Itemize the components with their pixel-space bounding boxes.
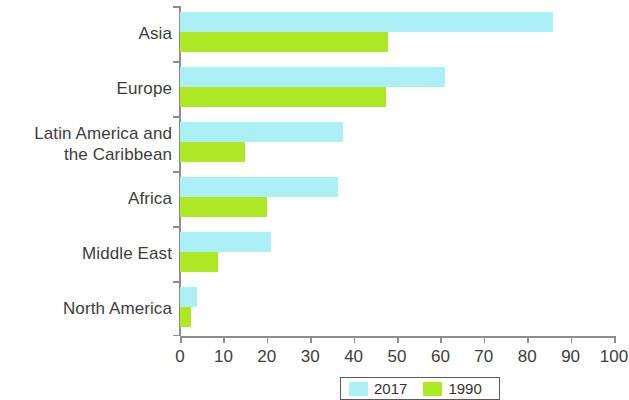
x-axis xyxy=(180,336,614,346)
x-axis-tick xyxy=(180,336,182,343)
category-label: Asia xyxy=(0,23,172,44)
x-axis-tick xyxy=(397,336,399,343)
bar-1990-africa xyxy=(180,197,267,217)
x-axis-tick-label: 100 xyxy=(600,346,628,368)
x-axis-tick xyxy=(614,336,616,343)
bar-chart: AsiaEuropeLatin America and the Caribbea… xyxy=(0,0,629,400)
y-axis-tick xyxy=(173,226,180,228)
x-axis-tick-label: 80 xyxy=(518,346,537,368)
x-axis-tick-label: 90 xyxy=(561,346,580,368)
bar-2017-africa xyxy=(180,177,338,197)
x-axis-tick xyxy=(484,336,486,343)
x-axis-tick xyxy=(527,336,529,343)
x-axis-tick-label: 60 xyxy=(431,346,450,368)
legend-swatch-icon xyxy=(349,382,368,396)
x-axis-tick-label: 0 xyxy=(175,346,184,368)
x-axis-tick xyxy=(571,336,573,343)
x-axis-tick xyxy=(310,336,312,343)
x-axis-tick xyxy=(354,336,356,343)
bar-2017-middle-east xyxy=(180,232,271,252)
y-axis-category-labels: AsiaEuropeLatin America and the Caribbea… xyxy=(0,0,172,336)
bar-2017-europe xyxy=(180,67,445,87)
bar-2017-north-america xyxy=(180,287,197,307)
y-axis-tick xyxy=(173,171,180,173)
x-axis-tick xyxy=(440,336,442,343)
x-axis-tick-label: 30 xyxy=(301,346,320,368)
plot-area xyxy=(180,6,614,336)
x-axis-tick-label: 20 xyxy=(257,346,276,368)
x-axis-tick-labels: 0102030405060708090100 xyxy=(180,346,629,370)
x-axis-tick-label: 70 xyxy=(474,346,493,368)
legend-label: 1990 xyxy=(448,381,481,397)
x-axis-tick xyxy=(267,336,269,343)
x-axis-tick-label: 10 xyxy=(214,346,233,368)
category-label: North America xyxy=(0,298,172,319)
category-label: Latin America and the Caribbean xyxy=(0,123,172,165)
bar-1990-latin-america-and-the-caribbean xyxy=(180,142,245,162)
x-axis-tick-label: 50 xyxy=(388,346,407,368)
y-axis-tick xyxy=(173,6,180,8)
y-axis-tick xyxy=(173,116,180,118)
legend-item-2017[interactable]: 2017 xyxy=(349,381,407,397)
category-label: Africa xyxy=(0,188,172,209)
legend-swatch-icon xyxy=(423,382,442,396)
bar-1990-asia xyxy=(180,32,388,52)
legend-label: 2017 xyxy=(374,381,407,397)
x-axis-tick xyxy=(223,336,225,343)
legend-item-1990[interactable]: 1990 xyxy=(423,381,481,397)
bar-1990-north-america xyxy=(180,307,191,327)
category-label: Middle East xyxy=(0,243,172,264)
bar-1990-middle-east xyxy=(180,252,218,272)
chart-legend: 20171990 xyxy=(340,377,500,400)
category-label: Europe xyxy=(0,78,172,99)
x-axis-tick-label: 40 xyxy=(344,346,363,368)
bar-1990-europe xyxy=(180,87,386,107)
bar-2017-latin-america-and-the-caribbean xyxy=(180,122,343,142)
bar-2017-asia xyxy=(180,12,553,32)
y-axis-tick xyxy=(173,281,180,283)
y-axis-tick xyxy=(173,61,180,63)
y-axis-tick xyxy=(173,335,180,337)
